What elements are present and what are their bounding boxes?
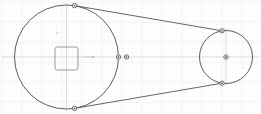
driver-bottom-tangent-point[interactable] (72, 106, 76, 110)
sketch-canvas[interactable]: Belt and pulley tangent construction 2D … (0, 0, 261, 114)
sketch-svg[interactable] (0, 0, 261, 114)
driver-top-tangent-point[interactable] (72, 3, 76, 7)
driven-center-point[interactable] (224, 55, 228, 59)
driver-offset-right-point[interactable] (124, 55, 128, 59)
driver-rim-right-point[interactable] (116, 55, 120, 59)
driven-bottom-tangent-point[interactable] (220, 81, 224, 85)
driven-top-tangent-point[interactable] (220, 29, 224, 33)
